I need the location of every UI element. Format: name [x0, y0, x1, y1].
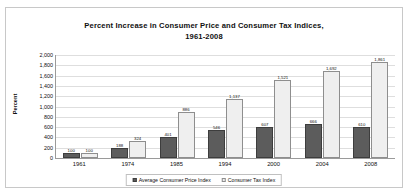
bar[interactable]: 324	[129, 141, 146, 158]
x-axis-tick-label: 2008	[346, 161, 395, 167]
bar-group: 5461,137	[201, 55, 249, 158]
bar-groups: 1001001883244018865461,1376071,5216661,6…	[56, 55, 395, 158]
bar[interactable]: 546	[208, 130, 225, 158]
bar-value-label: 324	[134, 136, 141, 141]
bar[interactable]: 100	[63, 153, 80, 158]
legend-swatch-icon	[133, 178, 137, 182]
y-axis-tick-label: 200	[44, 145, 53, 151]
x-axis-tick-label: 2000	[249, 161, 298, 167]
legend-entry[interactable]: Consumer Tax Index	[222, 177, 275, 183]
x-axis-tick-label: 1985	[152, 161, 201, 167]
x-axis-tick-label: 1961	[55, 161, 104, 167]
bar-group: 6071,521	[250, 55, 298, 158]
y-axis-tick-label: 400	[44, 134, 53, 140]
bar[interactable]: 1,861	[371, 62, 388, 158]
chart-title-line-2: 1961-2008	[6, 32, 402, 43]
bar-value-label: 401	[164, 132, 171, 137]
bar[interactable]: 188	[111, 148, 128, 158]
bar-group: 188324	[104, 55, 152, 158]
bar[interactable]: 607	[256, 127, 273, 158]
bar-value-label: 1,521	[278, 75, 289, 80]
bar-group: 6101,861	[347, 55, 395, 158]
bar-value-label: 546	[213, 125, 220, 130]
bar[interactable]: 1,137	[226, 99, 243, 158]
bar-value-label: 100	[68, 148, 75, 153]
bar[interactable]: 100	[81, 153, 98, 158]
chart-container: Percent Increase in Consumer Price and C…	[5, 7, 403, 188]
legend-label: Consumer Tax Index	[228, 177, 275, 183]
bar-value-label: 188	[116, 143, 123, 148]
bar[interactable]: 610	[353, 127, 370, 158]
y-axis-tick-label: 0	[50, 155, 53, 161]
bar-group: 100100	[56, 55, 104, 158]
bar-group: 401886	[153, 55, 201, 158]
y-axis-tick-label: 1,600	[40, 73, 54, 79]
chart-title-line-1: Percent Increase in Consumer Price and C…	[6, 21, 402, 32]
bar[interactable]: 1,692	[323, 71, 340, 158]
bar-group: 6661,692	[298, 55, 346, 158]
y-axis-tick-label: 1,200	[40, 93, 54, 99]
x-axis-tick-label: 1974	[104, 161, 153, 167]
y-axis-tick-label: 1,000	[40, 104, 54, 110]
bar-value-label: 100	[86, 148, 93, 153]
bar-value-label: 1,861	[374, 57, 385, 62]
y-axis-tick-label: 2,000	[40, 52, 54, 58]
plot-area: 2,0001,8001,6001,4001,2001,0008006004002…	[55, 55, 395, 159]
bar-value-label: 886	[182, 107, 189, 112]
x-axis-tick-label: 2004	[298, 161, 347, 167]
chart-legend: Average Consumer Price IndexConsumer Tax…	[126, 174, 282, 186]
chart-title: Percent Increase in Consumer Price and C…	[6, 21, 402, 42]
bar-value-label: 666	[310, 119, 317, 124]
x-axis-tick-label: 1994	[201, 161, 250, 167]
legend-swatch-icon	[222, 178, 226, 182]
y-axis-tick-label: 800	[44, 114, 53, 120]
bar[interactable]: 1,521	[274, 80, 291, 158]
bar[interactable]: 886	[178, 112, 195, 158]
bar-value-label: 610	[358, 122, 365, 127]
legend-label: Average Consumer Price Index	[139, 177, 211, 183]
bar-value-label: 1,692	[326, 66, 337, 71]
bar[interactable]: 666	[305, 124, 322, 158]
y-axis-tick-label: 1,800	[40, 62, 54, 68]
bar-value-label: 607	[261, 122, 268, 127]
legend-entry[interactable]: Average Consumer Price Index	[133, 177, 211, 183]
bar[interactable]: 401	[160, 137, 177, 158]
y-axis-tick-label: 600	[44, 124, 53, 130]
y-axis-title: Percent	[12, 94, 18, 115]
bar-value-label: 1,137	[229, 94, 240, 99]
x-axis-tick-labels: 1961197419851994200020042008	[55, 161, 395, 167]
y-axis-tick-label: 1,400	[40, 83, 54, 89]
